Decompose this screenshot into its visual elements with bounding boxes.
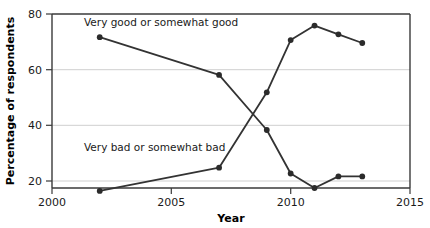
data-point (312, 185, 318, 191)
data-point (288, 37, 294, 43)
data-point (336, 174, 342, 180)
data-point (312, 23, 318, 29)
data-point (288, 171, 294, 177)
x-tick-label-2010: 2010 (277, 196, 305, 209)
x-axis-title: Year (216, 212, 245, 225)
data-point (336, 31, 342, 37)
chart-figure: 80 60 40 20 2000 2005 2010 2015 Very goo… (0, 0, 430, 228)
annotation-good: Very good or somewhat good (84, 16, 238, 28)
data-point (216, 165, 222, 171)
data-point (97, 34, 103, 40)
y-tick-label-80: 80 (28, 8, 42, 21)
annotation-bad: Very bad or somewhat bad (84, 141, 225, 153)
x-tick-label-2005: 2005 (157, 196, 185, 209)
y-tick-label-40: 40 (28, 119, 42, 132)
data-point (264, 127, 270, 133)
x-tick-label-2000: 2000 (38, 196, 66, 209)
data-point (264, 89, 270, 95)
data-point (359, 40, 365, 46)
data-point (97, 188, 103, 194)
x-tick-label-2015: 2015 (396, 196, 424, 209)
data-point (216, 72, 222, 78)
line-chart: 80 60 40 20 2000 2005 2010 2015 Very goo… (0, 0, 430, 228)
chart-background (0, 0, 430, 228)
y-tick-label-60: 60 (28, 64, 42, 77)
y-axis-title: Percentage of respondents (4, 16, 17, 185)
data-point (359, 174, 365, 180)
y-tick-label-20: 20 (28, 175, 42, 188)
